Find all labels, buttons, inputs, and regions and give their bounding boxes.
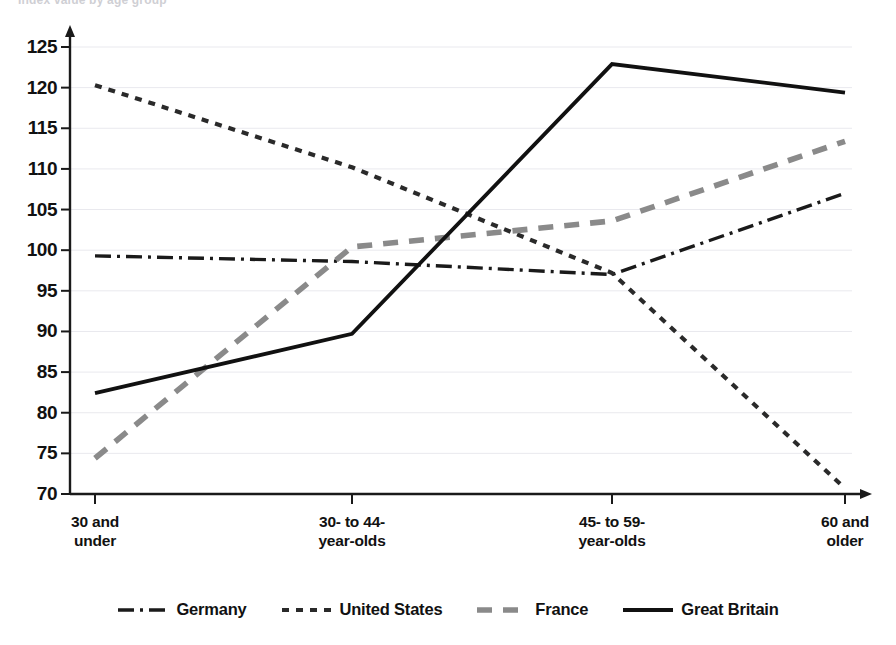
x-axis-tick-label: 45- to 59- year-olds [532, 512, 692, 551]
y-axis-tick-label: 105 [5, 199, 57, 221]
line-chart: Index value by age group 125120115110105… [0, 0, 896, 645]
dash-dot-swatch [117, 603, 169, 617]
x-axis-tick-label: 60 and older [765, 512, 896, 551]
x-axis-tick-label: 30- to 44- year-olds [272, 512, 432, 551]
y-axis-tick-label: 110 [5, 158, 57, 180]
chart-legend: GermanyUnited StatesFranceGreat Britain [0, 600, 896, 619]
legend-item-united-states[interactable]: United States [281, 600, 443, 619]
series-line-united-states [95, 85, 845, 488]
y-axis-tick-label: 125 [5, 36, 57, 58]
legend-item-great-britain[interactable]: Great Britain [622, 600, 778, 619]
x-axis-tick-label: 30 and under [15, 512, 175, 551]
series-line-france [95, 141, 845, 458]
y-axis-tick-label: 95 [5, 280, 57, 302]
plot-area [0, 0, 896, 600]
legend-label: Great Britain [681, 600, 778, 619]
dashed-gray-swatch [476, 603, 528, 617]
y-axis-tick-label: 70 [5, 483, 57, 505]
y-axis-tick-label: 120 [5, 77, 57, 99]
series-line-great-britain [95, 64, 845, 393]
legend-label: United States [340, 600, 443, 619]
y-axis-tick-label: 80 [5, 402, 57, 424]
dotted-swatch [281, 603, 333, 617]
y-axis-tick-label: 100 [5, 239, 57, 261]
y-axis-tick-label: 85 [5, 361, 57, 383]
legend-item-germany[interactable]: Germany [117, 600, 246, 619]
legend-label: Germany [176, 600, 246, 619]
legend-item-france[interactable]: France [476, 600, 588, 619]
y-axis-arrow [65, 25, 75, 37]
legend-label: France [535, 600, 588, 619]
y-axis-tick-label: 75 [5, 442, 57, 464]
y-axis-tick-label: 90 [5, 320, 57, 342]
solid-swatch [622, 603, 674, 617]
y-axis-tick-label: 115 [5, 117, 57, 139]
x-axis-arrow [860, 489, 872, 499]
